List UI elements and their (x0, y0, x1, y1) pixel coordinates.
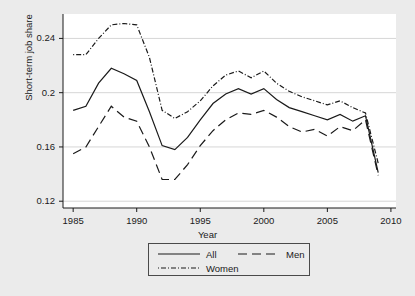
chart-legend: AllMenWomen (148, 243, 310, 276)
legend-label: Women (206, 263, 239, 274)
x-tick-label: 2010 (369, 215, 413, 226)
legend-label: Men (286, 249, 304, 260)
chart-figure: Short-term job share Year 0.120.160.20.2… (0, 0, 415, 296)
x-tick-label: 1990 (115, 215, 159, 226)
legend-entry-women: Women (157, 261, 239, 275)
legend-key-dashed (237, 249, 281, 259)
y-tick-label: 0.16 (21, 142, 55, 152)
legend-entry-men: Men (237, 247, 304, 261)
y-tick-label: 0.2 (21, 88, 55, 98)
y-axis-title: Short-term job share (23, 0, 34, 138)
y-tick-label: 0.12 (21, 196, 55, 206)
y-tick-label: 0.24 (21, 33, 55, 43)
legend-key-dash-dot (157, 263, 201, 273)
x-tick-label: 1985 (51, 215, 95, 226)
x-tick-label: 1995 (178, 215, 222, 226)
x-tick-label: 2005 (305, 215, 349, 226)
legend-label: All (206, 249, 217, 260)
x-tick-label: 2000 (242, 215, 286, 226)
legend-entry-all: All (157, 247, 217, 261)
x-axis-title: Year (0, 229, 415, 240)
legend-key-solid (157, 249, 201, 259)
